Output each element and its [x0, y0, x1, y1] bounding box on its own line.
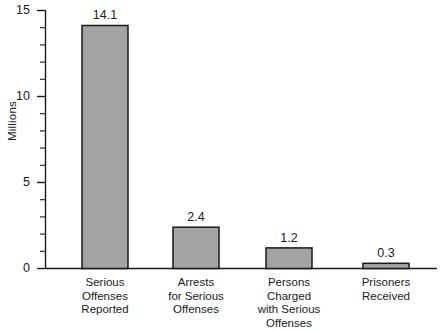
category-label-line: Persons — [239, 276, 339, 290]
category-label-line: Offenses — [55, 290, 155, 304]
y-axis-major-ticks — [37, 11, 46, 269]
category-label-line: Offenses — [146, 303, 246, 317]
category-label-line: Offenses — [239, 317, 339, 330]
bar-value-label-2: 2.4 — [171, 211, 221, 224]
category-label-line: Arrests — [146, 276, 246, 290]
bar-prisoners-received — [363, 263, 409, 268]
category-label-line: for Serious — [146, 290, 246, 304]
category-label-line: Serious — [55, 276, 155, 290]
category-label-line: Received — [336, 290, 436, 304]
bar-chart: Millions 15 10 5 0 — [0, 0, 442, 330]
category-label-persons-charged-with-serious-offenses: Persons Charged with Serious Offenses — [239, 276, 339, 330]
category-label-prisoners-received: Prisoners Received — [336, 276, 436, 303]
bar-serious-offenses-reported — [82, 26, 128, 269]
category-label-serious-offenses-reported: Serious Offenses Reported — [55, 276, 155, 317]
y-axis-minor-ticks — [40, 28, 46, 252]
bar-value-label-3: 1.2 — [264, 232, 314, 245]
bar-persons-charged-with-serious-offenses — [266, 248, 312, 269]
category-label-line: with Serious — [239, 303, 339, 317]
category-label-arrests-for-serious-offenses: Arrests for Serious Offenses — [146, 276, 246, 317]
bar-arrests-for-serious-offenses — [173, 227, 219, 268]
category-label-line: Reported — [55, 303, 155, 317]
bar-value-label-1: 14.1 — [80, 9, 130, 22]
category-label-line: Prisoners — [336, 276, 436, 290]
bar-value-label-4: 0.3 — [361, 247, 411, 260]
category-label-line: Charged — [239, 290, 339, 304]
